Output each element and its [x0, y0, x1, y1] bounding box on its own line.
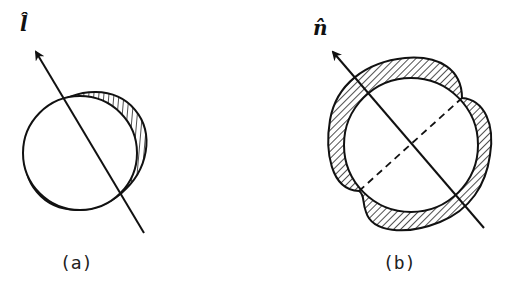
caption-a: (a) [60, 252, 93, 273]
caption-b: (b) [383, 252, 416, 273]
axis-label-n-hat: n̂ [313, 16, 328, 40]
panel-a [2, 52, 171, 234]
reference-circle-b [344, 78, 478, 212]
panel-b [328, 52, 491, 230]
axis-label-l-hat: l̂ [20, 12, 28, 36]
